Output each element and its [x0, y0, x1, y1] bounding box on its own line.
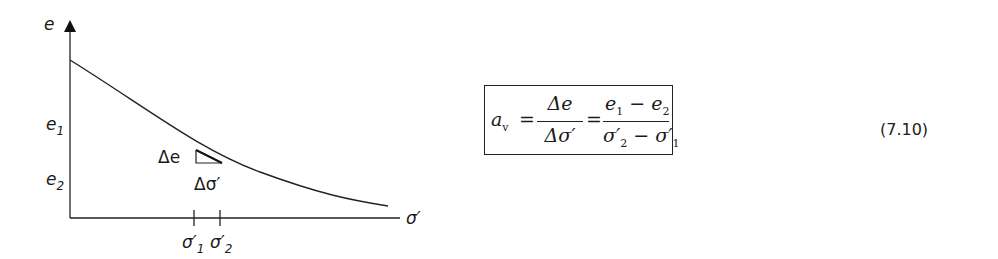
- y-axis-arrow-icon: [64, 20, 76, 32]
- compression-curve-diagram: e σ′ e1 e2 Δe Δσ′ σ′1 σ′2: [0, 0, 470, 259]
- equals-2: =: [586, 108, 602, 130]
- equation-number: (7.10): [880, 120, 928, 139]
- frac1-denominator: Δσ′: [537, 124, 583, 146]
- lhs-av: av: [491, 108, 509, 134]
- y-axis-label: e: [44, 14, 54, 34]
- y-tick-label-e2: e2: [46, 169, 64, 193]
- slope-hypotenuse: [196, 150, 222, 163]
- y-tick-label-e1: e1: [46, 114, 64, 138]
- delta-e-label: Δe: [158, 147, 180, 167]
- x-tick-label-sigma2: σ′2: [210, 232, 232, 256]
- x-axis-label: σ′: [406, 208, 421, 228]
- boxed-equation: av = Δe Δσ′ = e1 − e2 σ′2 − σ′1: [484, 85, 673, 155]
- frac2-denominator: σ′2 − σ′1: [603, 124, 680, 150]
- frac1-bar: [537, 121, 583, 122]
- e-sigma-curve: [70, 60, 388, 206]
- frac2-bar: [603, 121, 669, 122]
- frac2-numerator: e1 − e2: [605, 92, 670, 118]
- x-tick-label-sigma1: σ′1: [182, 232, 204, 256]
- equals-1: =: [519, 108, 535, 130]
- frac1-numerator: Δe: [537, 92, 583, 114]
- delta-sigma-label: Δσ′: [194, 174, 220, 194]
